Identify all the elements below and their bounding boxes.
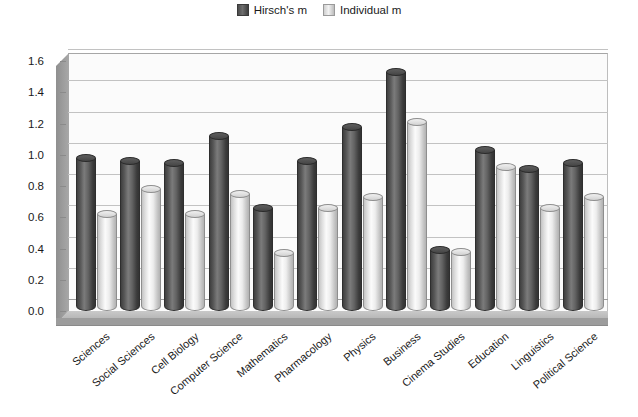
x-axis-label-education: Education [466,330,511,371]
x-axis-label-physics: Physics [341,330,378,364]
x-axis-label-business: Business [380,330,422,368]
plot-area: 0.00.20.40.60.81.01.21.41.6 SciencesSoci… [0,0,638,417]
x-axis-labels: SciencesSocial SciencesCell BiologyCompu… [0,0,638,417]
x-axis-label-sciences: Sciences [70,330,112,368]
bar-chart: Hirsch's m Individual m 0.00.20.40.60.81… [0,0,638,417]
